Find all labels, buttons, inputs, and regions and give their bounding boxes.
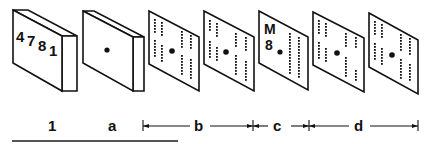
card-c: M 8 <box>259 11 308 90</box>
card-a-side-face <box>133 37 144 91</box>
label-span-d: d <box>354 117 363 134</box>
center-dot-icon <box>223 49 229 55</box>
label-span-c: c <box>273 117 281 134</box>
card-1-digit: 7 <box>27 32 35 49</box>
card-d2 <box>369 13 418 94</box>
card-1-side-face <box>62 36 77 91</box>
card-1-digit: 1 <box>49 42 57 59</box>
arrowhead-icon <box>253 124 259 128</box>
card-1-digit: 8 <box>38 37 46 54</box>
card-a <box>83 11 144 91</box>
label-a: a <box>108 117 117 134</box>
center-dot-icon <box>277 49 282 54</box>
card-1-digit: 4 <box>16 28 25 45</box>
card-1: 4 7 8 1 <box>13 10 77 91</box>
card-d1 <box>313 12 364 92</box>
label-1: 1 <box>48 117 56 134</box>
arrowhead-icon <box>412 124 418 128</box>
card-c-mark-number: 8 <box>265 37 273 53</box>
center-dot-icon <box>104 47 109 52</box>
card-b2 <box>204 11 254 91</box>
center-dot-icon <box>334 50 340 56</box>
arrowhead-icon <box>309 124 315 128</box>
arrowhead-icon <box>247 124 253 128</box>
arrowhead-icon <box>143 124 149 128</box>
card-sequence-diagram: 4 7 8 1 <box>0 0 432 144</box>
card-b1 <box>149 11 199 91</box>
card-c-mark-letter: M <box>264 21 276 37</box>
center-dot-icon <box>389 52 395 58</box>
arrowhead-icon <box>303 124 309 128</box>
center-dot-icon <box>169 48 175 54</box>
label-span-b: b <box>194 117 203 134</box>
